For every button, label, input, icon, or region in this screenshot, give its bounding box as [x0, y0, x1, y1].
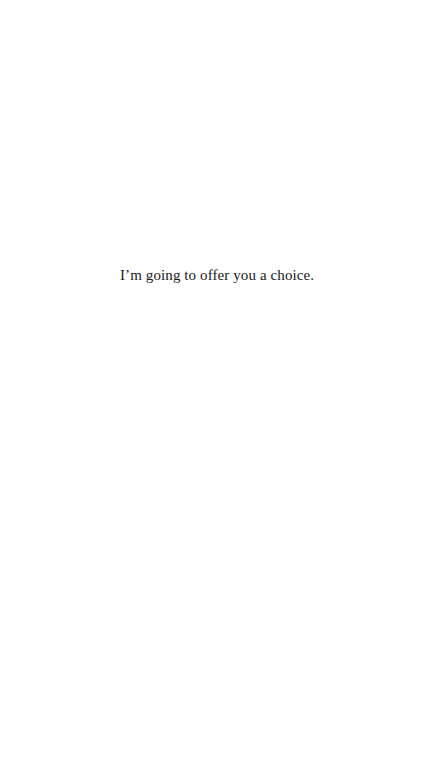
- body-text-line: I’m going to offer you a choice.: [120, 267, 314, 284]
- book-page: I’m going to offer you a choice.: [0, 0, 441, 765]
